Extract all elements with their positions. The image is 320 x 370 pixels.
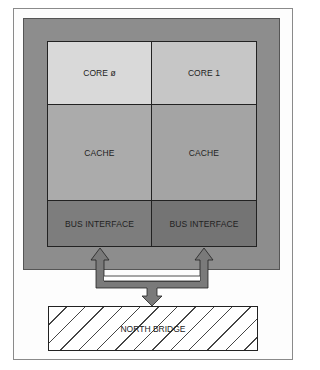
north-bridge: NORTH BRIDGE <box>48 306 258 351</box>
bus-gap <box>104 276 200 281</box>
north-bridge-label: NORTH BRIDGE <box>120 324 185 334</box>
